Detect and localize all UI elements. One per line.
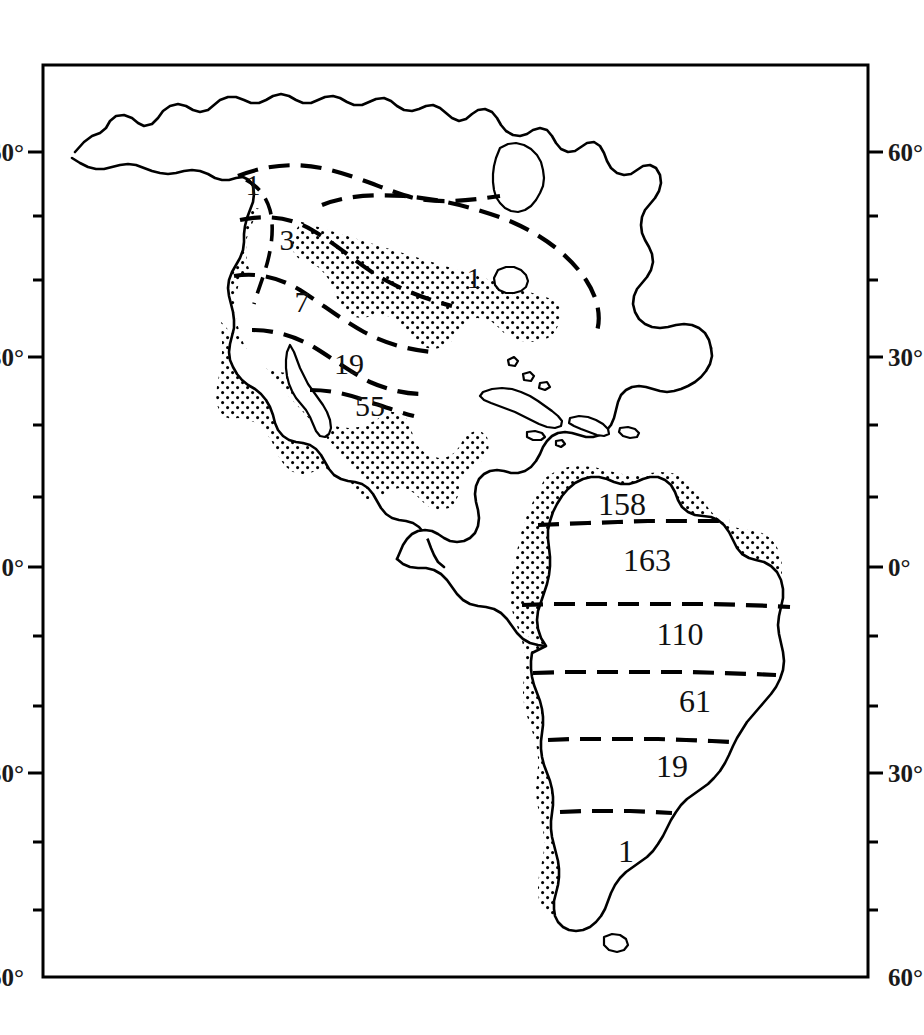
latitude-label-right-60n: 60° (888, 139, 923, 166)
latitude-label-left-60s: 60° (0, 964, 24, 991)
coastline-jamaica (527, 431, 545, 440)
coastline-tierra-del-fuego (604, 934, 628, 952)
axis-labels-left: 60° 30° 0° 30° 60° (0, 139, 24, 991)
latitude-label-left-30n: 30° (0, 344, 24, 371)
latitude-label-left-30s: 30° (0, 760, 24, 787)
region-value-northern-argentina: 19 (656, 748, 688, 784)
region-value-central-brazil: 110 (657, 616, 704, 652)
axis-ticks-right (868, 152, 883, 910)
latitude-label-right-30n: 30° (888, 344, 923, 371)
latitude-label-right-0: 0° (888, 554, 911, 581)
region-value-canada-east-usa: 1 (467, 261, 482, 294)
coastline-cuba (480, 388, 562, 428)
map-canvas: 60° 30° 0° 30° 60° 60° 30° 0° 30° 60° (0, 0, 924, 1035)
latitude-label-left-60n: 60° (0, 139, 24, 166)
latitude-label-right-60s: 60° (888, 964, 923, 991)
region-value-southern-mexico: 55 (355, 389, 385, 422)
coastline-lesser-antilles (556, 440, 565, 447)
region-value-northern-south-america: 158 (598, 486, 646, 522)
latitude-label-left-0: 0° (2, 554, 25, 581)
region-value-patagonia: 1 (618, 833, 634, 869)
region-value-southern-brazil: 61 (679, 683, 711, 719)
region-value-great-basin-sw: 7 (295, 285, 310, 318)
coastline-great-lakes (494, 267, 528, 293)
americas-distribution-map: 60° 30° 0° 30° 60° 60° 30° 0° 30° 60° (0, 0, 924, 1035)
latitude-label-right-30s: 30° (888, 760, 923, 787)
region-value-nw-coast: 1 (246, 168, 261, 201)
region-value-pacific-northwest: 3 (280, 223, 295, 256)
figure-page: 60° 30° 0° 30° 60° 60° 30° 0° 30° 60° (0, 0, 924, 1035)
region-value-amazon-equatorial: 163 (623, 542, 671, 578)
coastline-puerto-rico (619, 427, 639, 438)
region-value-northern-mexico: 19 (334, 347, 364, 380)
axis-labels-right: 60° 30° 0° 30° 60° (888, 139, 923, 991)
coastline-bahamas (508, 357, 550, 390)
axis-ticks-left (28, 152, 43, 910)
